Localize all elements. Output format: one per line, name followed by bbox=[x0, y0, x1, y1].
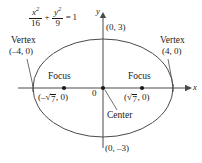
y-term-numerator: y2 bbox=[52, 6, 63, 18]
vertex-left-label: Vertex bbox=[11, 36, 36, 46]
focus-left-coordinate: (– √ 7 , 0) bbox=[38, 93, 68, 104]
y-term-fraction: y2 9 bbox=[52, 6, 63, 28]
leader-line-vertex-left bbox=[27, 59, 33, 86]
y-term-denominator: 9 bbox=[53, 19, 62, 29]
focus-left-paren-open: (– bbox=[38, 93, 46, 102]
x-term-denominator: 16 bbox=[29, 19, 42, 29]
y-term-exponent: 2 bbox=[58, 5, 61, 12]
ellipse-figure: x2 16 + y2 9 = 1 x y 0 Vertex (–4, 0) Ve… bbox=[0, 0, 202, 163]
focus-left-radical: √ 7 bbox=[46, 93, 56, 104]
plus-sign: + bbox=[45, 12, 50, 22]
origin-label: 0 bbox=[92, 89, 97, 98]
top-covertex-coordinate: (0, 3) bbox=[106, 23, 126, 32]
vertex-right-coordinate: (4, 0) bbox=[162, 47, 182, 56]
x-axis-label: x bbox=[193, 83, 197, 92]
x-term-fraction: x2 16 bbox=[29, 6, 42, 28]
equals-sign: = bbox=[66, 12, 71, 22]
equation-right-side: 1 bbox=[72, 12, 77, 22]
focus-left-label: Focus bbox=[48, 72, 71, 82]
x-term-exponent: 2 bbox=[36, 5, 39, 12]
focus-right-coordinate: ( √ 7 , 0) bbox=[124, 93, 149, 104]
center-label: Center bbox=[107, 111, 132, 121]
x-term-numerator: x2 bbox=[30, 6, 41, 18]
focus-right-label: Focus bbox=[128, 72, 151, 82]
focus-point-right bbox=[140, 86, 144, 90]
center-point bbox=[101, 86, 105, 90]
focus-left-paren-close: , 0) bbox=[56, 93, 68, 102]
focus-right-radical: √ 7 bbox=[127, 93, 137, 104]
vertex-left-coordinate: (–4, 0) bbox=[9, 47, 33, 56]
y-axis-label: y bbox=[96, 7, 100, 16]
leader-line-vertex-right bbox=[168, 59, 173, 86]
focus-point-left bbox=[62, 86, 66, 90]
focus-right-paren-close: , 0) bbox=[137, 93, 149, 102]
ellipse-equation: x2 16 + y2 9 = 1 bbox=[28, 6, 77, 28]
leader-line-center bbox=[105, 90, 117, 110]
bottom-covertex-coordinate: (0, –3) bbox=[105, 144, 129, 153]
vertex-right-label: Vertex bbox=[160, 36, 185, 46]
